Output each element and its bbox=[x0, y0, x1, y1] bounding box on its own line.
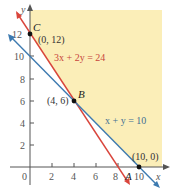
y-axis-arrow-icon bbox=[27, 4, 33, 11]
vertex-c-label: C bbox=[33, 21, 41, 33]
y-axis-label: y bbox=[20, 4, 26, 15]
equation-blue-label: x + y = 10 bbox=[105, 115, 146, 126]
vertex-a-label: A bbox=[124, 170, 132, 182]
vertex-a-point bbox=[137, 165, 142, 170]
vertex-c-coords: (0, 12) bbox=[38, 34, 65, 46]
x-axis-arrow-icon bbox=[163, 164, 170, 170]
x-axis-label: x bbox=[155, 171, 161, 182]
x-tick-label: 0 bbox=[22, 171, 27, 182]
vertex-c-point bbox=[28, 32, 33, 37]
vertex-b-label: B bbox=[78, 88, 85, 100]
y-tick-label: 10 bbox=[14, 51, 24, 62]
y-tick-label: 6 bbox=[20, 96, 25, 107]
x-tick-label: 8 bbox=[113, 171, 118, 182]
x-tick-label: 4 bbox=[71, 171, 76, 182]
chart-canvas: 12 10 8 6 4 2 0 2 4 6 8 10 y x C (0, 12)… bbox=[0, 0, 171, 192]
x-tick-label: 6 bbox=[93, 171, 98, 182]
y-tick-label: 2 bbox=[20, 140, 25, 151]
x-tick-label: 10 bbox=[134, 171, 144, 182]
vertex-b-coords: (4, 6) bbox=[47, 95, 69, 107]
y-tick-label: 8 bbox=[20, 74, 25, 85]
equation-red-label: 3x + 2y = 24 bbox=[54, 52, 105, 63]
vertex-a-coords: (10, 0) bbox=[132, 151, 159, 163]
x-ticks bbox=[52, 163, 118, 167]
y-ticks bbox=[30, 56, 34, 145]
y-tick-label: 4 bbox=[20, 118, 25, 129]
vertex-b-point bbox=[72, 99, 77, 104]
x-tick-label: 2 bbox=[49, 171, 54, 182]
